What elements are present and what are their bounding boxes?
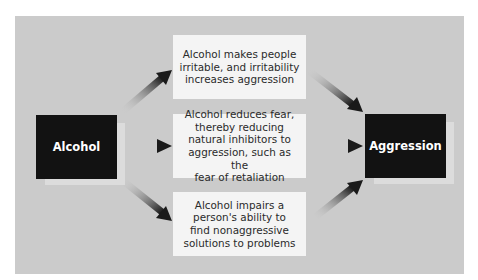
pathway-problem-solving-box: Alcohol impairs a person's ability to fi… bbox=[173, 192, 306, 256]
pathway-text-line: irritable, and irritability bbox=[180, 61, 300, 74]
aggression-node: Aggression bbox=[365, 114, 446, 178]
pathway-text-line: solutions to problems bbox=[183, 237, 295, 250]
arrow-alcohol-to-problem-solving bbox=[122, 180, 172, 221]
pathway-text-line: thereby reducing bbox=[179, 121, 300, 134]
pathway-text-line: Alcohol makes people bbox=[180, 48, 300, 61]
pathway-text-line: increases aggression bbox=[180, 73, 300, 86]
pathway-text-line: find nonaggressive bbox=[183, 224, 295, 237]
pathway-text-line: natural inhibitors to bbox=[179, 133, 300, 146]
aggression-label: Aggression bbox=[369, 139, 442, 153]
pathway-text-line: fear of retaliation bbox=[179, 171, 300, 184]
pathway-text-line: aggression, such as the bbox=[179, 146, 300, 171]
pathway-irritability-box: Alcohol makes people irritable, and irri… bbox=[173, 35, 306, 99]
arrow-alcohol-to-fear bbox=[128, 139, 172, 153]
pathway-fear-box: Alcohol reduces fear, thereby reducing n… bbox=[173, 114, 306, 178]
pathway-text-line: Alcohol impairs a bbox=[183, 199, 295, 212]
arrow-alcohol-to-irritability bbox=[122, 70, 172, 112]
alcohol-node: Alcohol bbox=[36, 115, 117, 179]
arrow-irritability-to-aggression bbox=[308, 70, 363, 112]
pathway-text-line: Alcohol reduces fear, bbox=[179, 108, 300, 121]
arrow-fear-to-aggression bbox=[310, 139, 363, 153]
pathway-text-line: person's ability to bbox=[183, 211, 295, 224]
alcohol-label: Alcohol bbox=[53, 140, 101, 154]
arrow-problem-solving-to-aggression bbox=[314, 180, 363, 218]
